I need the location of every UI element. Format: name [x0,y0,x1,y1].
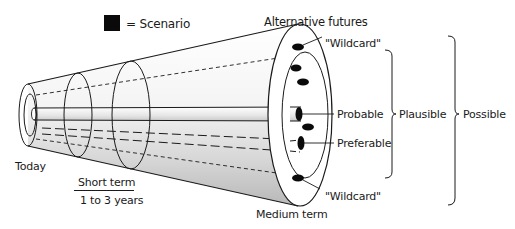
futures-cone-diagram: = Scenario Alternative futures "Wildcard… [0,0,515,229]
plausible-label: Plausible [399,109,446,120]
preferable-label: Preferable [337,138,391,149]
scenario-dot [291,65,302,72]
short-term-range-label: 1 to 3 years [80,195,143,206]
scenario-wildcard-top [292,44,304,51]
wildcard-top-label: "Wildcard" [325,38,381,49]
medium-term-label: Medium term [256,209,327,220]
scenario-legend-swatch [104,15,120,31]
alternative-futures-label: Alternative futures [264,17,368,29]
scenario-dot [302,124,314,131]
plausible-brace [385,50,396,178]
scenario-probable [296,107,303,121]
scenario-wildcard-bottom [292,175,304,182]
wildcard-bottom-label: "Wildcard" [325,191,381,202]
scenario-preferable [298,136,305,150]
scenario-dot [297,79,309,86]
short-term-label: Short term [78,177,135,188]
probable-label: Probable [337,109,383,120]
plausible-inner-ellipse [282,52,328,178]
legend-label: = Scenario [126,18,190,30]
probable-tube [34,107,301,121]
today-label: Today [15,161,46,172]
possible-brace [448,36,459,205]
possible-label: Possible [463,109,506,120]
short-term-divider [74,190,134,191]
